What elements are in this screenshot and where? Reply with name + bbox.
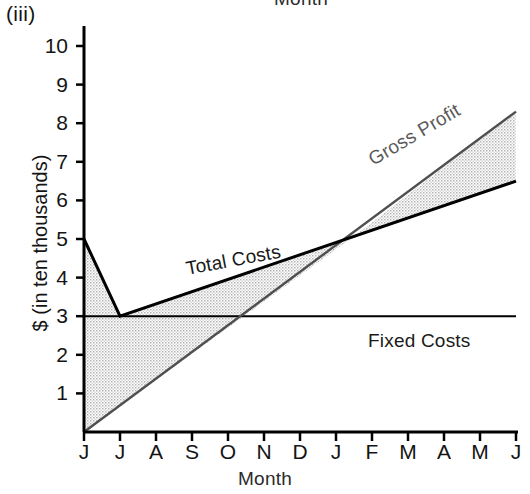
x-axis-tick-label: D xyxy=(285,440,315,464)
y-axis-tick-label: 10 xyxy=(34,35,68,56)
y-axis-tick-label: 9 xyxy=(34,74,68,95)
fixed-costs-label: Fixed Costs xyxy=(368,330,471,351)
y-axis-tick-label: 4 xyxy=(34,267,68,288)
y-axis-tick-label: 6 xyxy=(34,189,68,210)
y-axis-tick-label: 2 xyxy=(34,344,68,365)
x-axis-title: Month xyxy=(0,468,530,490)
y-axis-tick-label: 8 xyxy=(34,112,68,133)
panel-label: (iii) xyxy=(6,2,35,26)
y-axis-tick-label: 7 xyxy=(34,151,68,172)
x-axis-tick-label: M xyxy=(465,440,495,464)
y-axis-tick-label: 3 xyxy=(34,305,68,326)
break-even-chart-figure: Month (iii) $ (in ten thousands) Month xyxy=(0,0,530,494)
x-axis-tick-label: S xyxy=(177,440,207,464)
gross-profit-line xyxy=(84,112,516,432)
y-axis-tick-label: 1 xyxy=(34,382,68,403)
x-axis-tick-label: F xyxy=(357,440,387,464)
x-axis-tick-label: A xyxy=(141,440,171,464)
x-axis-tick-label: N xyxy=(249,440,279,464)
x-axis-tick-label: J xyxy=(501,440,530,464)
x-axis-tick-label: J xyxy=(321,440,351,464)
y-axis-tick-label: 5 xyxy=(34,228,68,249)
clipped-month-title-above: Month xyxy=(236,0,366,10)
x-axis-tick-label: O xyxy=(213,440,243,464)
x-axis-tick-label: A xyxy=(429,440,459,464)
x-axis-tick-label: J xyxy=(69,440,99,464)
x-axis-tick-label: J xyxy=(105,440,135,464)
x-axis-tick-label: M xyxy=(393,440,423,464)
